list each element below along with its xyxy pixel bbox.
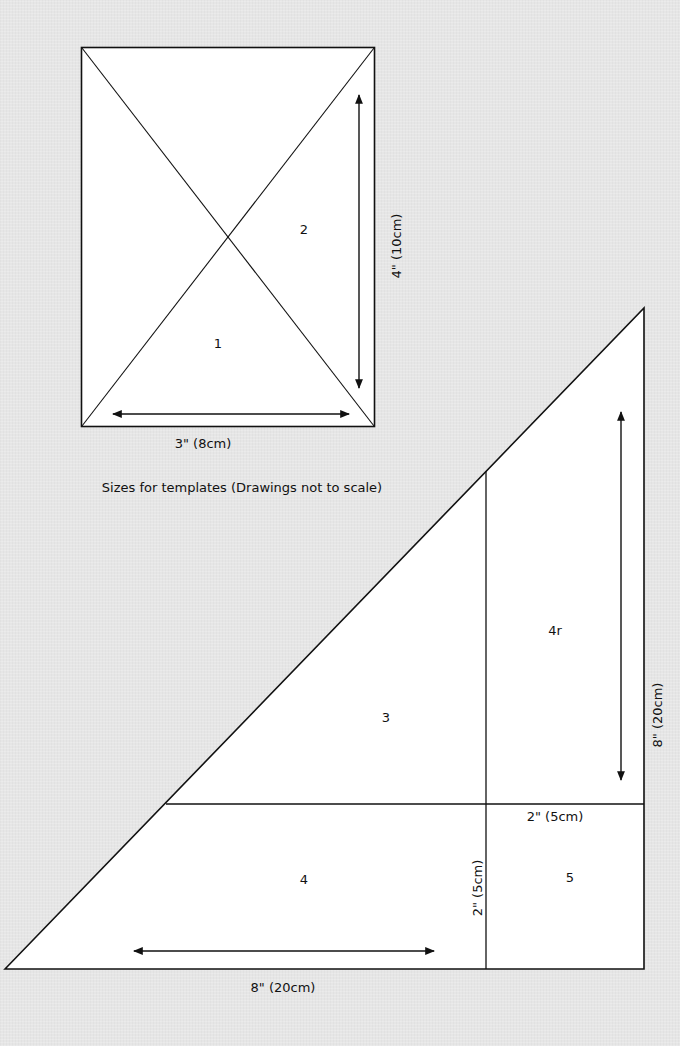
square-height-label: 2" (5cm) bbox=[470, 860, 485, 917]
piece-label-5: 5 bbox=[566, 870, 574, 885]
caption-text: Sizes for templates (Drawings not to sca… bbox=[102, 480, 382, 495]
triangle-base-label: 8" (20cm) bbox=[251, 980, 316, 995]
rectangle-template: 2 1 3" (8cm) 4" (10cm) bbox=[82, 48, 405, 452]
piece-label-4r: 4r bbox=[548, 623, 562, 638]
width-dimension-label: 3" (8cm) bbox=[175, 436, 232, 451]
piece-label-2: 2 bbox=[300, 222, 308, 237]
templates-diagram: 2 1 3" (8cm) 4" (10cm) Sizes for templat… bbox=[0, 0, 680, 1046]
piece-label-3: 3 bbox=[382, 710, 390, 725]
piece-label-1: 1 bbox=[214, 336, 222, 351]
height-dimension-label: 4" (10cm) bbox=[389, 214, 404, 279]
triangle-height-label: 8" (20cm) bbox=[650, 683, 665, 748]
square-width-label: 2" (5cm) bbox=[527, 809, 584, 824]
piece-label-4: 4 bbox=[300, 872, 308, 887]
